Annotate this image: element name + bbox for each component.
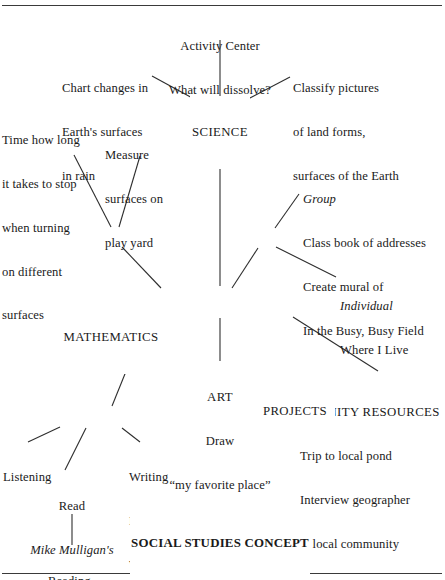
classify-pictures-line-1: Classify pictures xyxy=(293,81,445,96)
science-label: SCIENCE xyxy=(190,125,250,140)
line-language-arts-to-listening xyxy=(28,427,60,442)
group-projects-heading: Group xyxy=(303,192,445,207)
node-social-studies-concept: SOCIAL STUDIES CONCEPT We live on Earth. xyxy=(130,507,310,580)
node-projects: PROJECTS xyxy=(255,375,335,448)
concept-map-page: Activity Center What will dissolve? Char… xyxy=(0,0,445,580)
community-resources-line-1: Trip to local pond xyxy=(276,449,445,464)
top-horizontal-rule xyxy=(2,5,442,6)
chart-changes-line-1: Chart changes in xyxy=(62,81,160,96)
measure-surfaces-line-1: Measure xyxy=(105,148,185,163)
classify-pictures-line-2: of land forms, xyxy=(293,125,445,140)
individual-projects-heading: Individual xyxy=(340,299,440,314)
time-how-long-line-4: on different xyxy=(2,265,94,280)
measure-surfaces-line-3: play yard xyxy=(105,236,185,251)
node-individual-projects: Individual Where I Live xyxy=(340,270,440,387)
time-how-long-line-2: it takes to stop xyxy=(2,177,94,192)
group-projects-line-1: Class book of addresses xyxy=(303,236,445,251)
line-projects-to-center xyxy=(232,248,258,288)
line-language-arts-to-writing xyxy=(122,428,140,442)
writing-label: Writing xyxy=(129,470,249,485)
social-studies-concept-title: SOCIAL STUDIES CONCEPT xyxy=(130,536,310,551)
node-science: SCIENCE xyxy=(190,96,250,169)
community-resources-line-2: Interview geographer xyxy=(276,493,445,508)
time-how-long-line-3: when turning xyxy=(2,221,94,236)
time-how-long-line-1: Time how long xyxy=(2,133,94,148)
node-mathematics: MATHEMATICS xyxy=(62,301,160,374)
activity-center-line-1: Activity Center xyxy=(155,39,285,54)
individual-projects-line-1: Where I Live xyxy=(340,343,440,358)
read-label: Read xyxy=(20,499,124,514)
mathematics-label: MATHEMATICS xyxy=(62,330,160,345)
measure-surfaces-line-2: surfaces on xyxy=(105,192,185,207)
node-measure-surfaces: Measure surfaces on play yard xyxy=(105,119,185,280)
projects-label: PROJECTS xyxy=(255,404,335,419)
